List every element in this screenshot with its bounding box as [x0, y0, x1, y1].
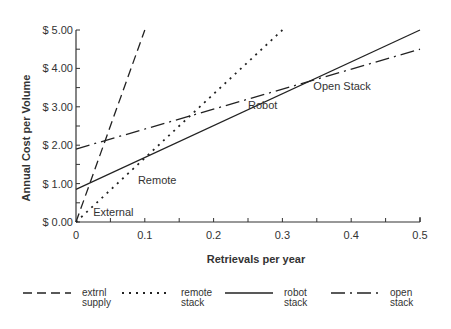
annotation-label: External: [93, 206, 133, 218]
axes: $ 0.00$ 1.00$ 2.00$ 3.00$ 4.00$ 5.0000.1…: [20, 24, 428, 265]
x-tick-label: 0.4: [344, 229, 359, 241]
x-tick-label: 0: [73, 229, 79, 241]
y-tick-label: $ 1.00: [42, 178, 73, 190]
cost-chart: $ 0.00$ 1.00$ 2.00$ 3.00$ 4.00$ 5.0000.1…: [0, 0, 451, 329]
x-tick-label: 0.1: [137, 229, 152, 241]
y-tick-label: $ 0.00: [42, 216, 73, 228]
x-axis-title: Retrievals per year: [207, 253, 306, 265]
annotation-label: Open Stack: [313, 80, 371, 92]
legend-label: stack: [390, 297, 414, 308]
y-tick-label: $ 3.00: [42, 101, 73, 113]
y-tick-label: $ 5.00: [42, 24, 73, 36]
x-tick-label: 0.3: [275, 229, 290, 241]
series-line-extrnl-supply: [76, 30, 145, 222]
x-tick-label: 0.2: [206, 229, 221, 241]
y-axis-title: Annual Cost per Volume: [20, 75, 32, 202]
annotation-label: Robot: [248, 99, 277, 111]
annotation-label: Remote: [138, 174, 177, 186]
legend-label: stack: [284, 297, 308, 308]
series-lines: [76, 30, 420, 222]
x-tick-label: 0.5: [412, 229, 427, 241]
legend-label: stack: [181, 297, 205, 308]
legend-label: supply: [82, 297, 111, 308]
legend: extrnlsupplyremotestackrobotstackopensta…: [23, 287, 414, 308]
series-line-remote-stack: [76, 30, 282, 222]
y-tick-label: $ 4.00: [42, 62, 73, 74]
y-tick-label: $ 2.00: [42, 139, 73, 151]
annotations: ExternalRemoteRobotOpen Stack: [93, 80, 371, 219]
